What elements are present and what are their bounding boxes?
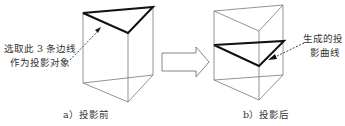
projection-diagram: 选取此 3 条边线 作为投影对象 a）投影前 生成的投 影曲线 b）投影后 [0, 0, 345, 126]
big-arrow-icon [162, 47, 209, 77]
left-caption: a）投影前 [63, 109, 109, 120]
right-annotation-line2: 影曲线 [310, 47, 340, 58]
right-caption: b）投影后 [243, 109, 289, 120]
left-annotation-line2: 作为投影对象 [10, 57, 70, 68]
diagram-canvas: 选取此 3 条边线 作为投影对象 a）投影前 生成的投 影曲线 b）投影后 [0, 0, 345, 126]
left-prism [83, 7, 153, 102]
right-projected-curve [214, 41, 284, 66]
left-selected-edges [83, 7, 153, 33]
right-annotation-line1: 生成的投 [303, 33, 343, 44]
left-annotation-line1: 选取此 3 条边线 [4, 43, 76, 54]
